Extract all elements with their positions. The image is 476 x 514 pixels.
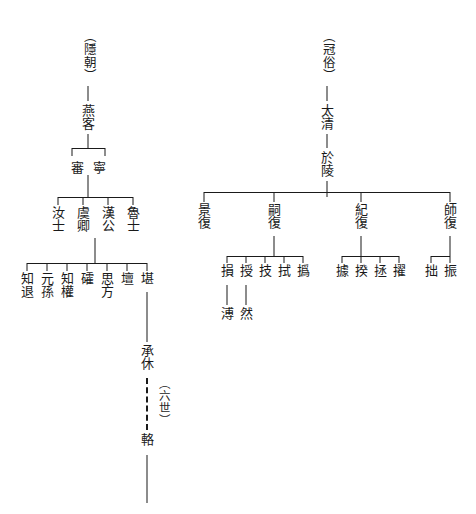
connector-vertical [87,263,88,271]
right-gen4b-node-4: 擢 [392,264,405,277]
connector-vertical [450,236,451,256]
connector-vertical [327,134,328,148]
right-gen4b-node-3: 拯 [373,264,386,277]
right-gen4a-node-2: 授 [239,264,252,277]
right-gen4a-node-5: 撝 [296,264,309,277]
left-gen5-node: 承休 [140,344,153,370]
connector-vertical [342,256,343,263]
left-gen3-node-1: 汝士 [51,206,64,232]
left-gen4-node-5: 思方 [100,272,113,298]
right-gen4b-node-1: 據 [335,264,348,277]
left-gen1-node: 燕客 [81,104,94,130]
connector-vertical-trailing [147,455,148,503]
connector-vertical [147,292,148,342]
connector-vertical [246,285,247,305]
connector-vertical [108,197,109,205]
left-gen3-node-4: 魯士 [126,206,139,232]
connector-vertical [127,263,128,271]
connector-vertical [88,175,89,197]
connector-vertical [361,192,362,202]
connector-vertical [303,256,304,263]
left-gen3-node-3: 漢公 [101,206,114,232]
connector-vertical [27,263,28,271]
right-gen4a-node-4: 拭 [277,264,290,277]
connector-horizontal [204,192,450,193]
right-root-parenthetical: （冠俗） [321,30,334,82]
right-gen1-node: 太清 [320,104,333,130]
connector-vertical [450,256,451,263]
connector-vertical [204,192,205,202]
connector-vertical [105,148,106,156]
connector-vertical [58,197,59,205]
right-gen4c-node-1: 拙 [424,264,437,277]
left-gen4-node-3: 知權 [60,272,73,298]
connector-vertical [47,263,48,271]
connector-horizontal [342,256,399,257]
left-gen4-node-4: 礭 [80,272,93,285]
left-gen2-node-1: 審 [71,157,84,176]
connector-vertical [284,256,285,263]
left-gen4-node-6: 壇 [120,272,133,285]
connector-vertical [88,86,89,101]
connector-vertical [95,238,96,263]
right-gen3-node-4: 師復 [443,203,456,229]
connector-vertical [274,192,275,202]
left-gen4-node-1: 知退 [20,272,33,298]
left-root-parenthetical: （隱朝） [82,30,95,82]
left-gen6-node: 輅 [140,433,153,446]
left-gen2-row: 審 寧 [71,157,106,176]
right-gen4b-node-2: 揆 [354,264,367,277]
right-gen4c-node-2: 振 [443,264,456,277]
connector-vertical [399,256,400,263]
connector-vertical [227,256,228,263]
connector-vertical [327,181,328,197]
connector-vertical [72,148,73,156]
right-gen4a-node-1: 損 [220,264,233,277]
connector-vertical [361,256,362,263]
connector-vertical [265,256,266,263]
connector-horizontal [431,256,450,257]
connector-vertical [88,134,89,148]
connector-vertical [107,263,108,271]
connector-vertical [147,263,148,271]
left-gen3-node-2: 虞卿 [76,206,89,232]
connector-vertical [274,236,275,256]
connector-vertical [133,197,134,205]
left-gen4-node-7: 堪 [140,272,153,285]
connector-vertical [246,256,247,263]
connector-vertical [431,256,432,263]
right-gen3-node-3: 紀復 [354,203,367,229]
right-gen5a-node-1: 溥 [220,307,233,320]
connector-vertical [380,256,381,263]
right-gen3-node-1: 景復 [197,203,210,229]
connector-vertical [67,263,68,271]
connector-horizontal [72,148,105,149]
connector-horizontal [58,197,133,198]
connector-vertical [83,197,84,205]
right-gen3-node-2: 嗣復 [267,203,280,229]
generation-gap-dashed-connector [146,378,148,430]
genealogy-chart: （隱朝） 燕客 審 寧 汝士 虞卿 漢公 魯士 知退 元孫 知權 礭 思方 壇 … [0,0,476,514]
connector-vertical [450,192,451,202]
right-gen5a-node-2: 然 [239,307,252,320]
connector-vertical [361,236,362,256]
right-gen4a-node-3: 技 [258,264,271,277]
connector-vertical [327,86,328,101]
right-gen2-node: 於陵 [320,151,333,177]
left-gen4-node-2: 元孫 [40,272,53,298]
generation-gap-label: （六世） [157,378,169,426]
connector-vertical [227,285,228,305]
left-gen2-node-2: 寧 [93,157,106,176]
